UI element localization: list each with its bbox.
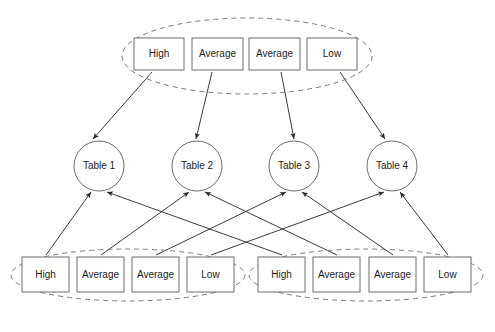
cropped-caption	[105, 312, 365, 322]
table-label-table-1: Table 1	[83, 160, 116, 171]
node-label-br-4: Low	[438, 269, 457, 280]
node-label-top-1: High	[149, 48, 170, 59]
node-label-bl-1: High	[35, 269, 56, 280]
node-label-bl-3: Average	[137, 269, 175, 280]
edge-br-1-to-table-1	[107, 192, 282, 255]
node-label-br-2: Average	[318, 269, 356, 280]
node-label-top-4: Low	[323, 48, 342, 59]
edge-top-2-to-table-2	[196, 72, 212, 139]
edge-top-4-to-table-4	[340, 72, 385, 139]
edge-top-1-to-table-1	[93, 72, 152, 139]
node-label-br-3: Average	[374, 269, 412, 280]
table-label-table-3: Table 3	[278, 160, 311, 171]
node-label-bl-4: Low	[201, 269, 220, 280]
edge-bl-1-to-table-1	[46, 192, 91, 255]
node-label-top-2: Average	[199, 48, 237, 59]
node-label-bl-2: Average	[82, 269, 120, 280]
node-label-top-3: Average	[256, 48, 294, 59]
table-label-table-4: Table 4	[376, 160, 409, 171]
edge-top-3-to-table-3	[281, 72, 294, 139]
edge-br-2-to-table-2	[205, 192, 337, 255]
table-label-table-2: Table 2	[181, 160, 214, 171]
tables-layer: Table 1Table 2Table 3Table 4	[74, 141, 417, 191]
diagram-svg: HighAverageAverageLowHighAverageAverageL…	[0, 0, 495, 332]
edge-bl-4-to-table-4	[211, 192, 384, 255]
node-label-br-1: High	[271, 269, 292, 280]
edge-br-3-to-table-3	[302, 192, 393, 255]
diagram-canvas: HighAverageAverageLowHighAverageAverageL…	[0, 0, 495, 332]
edge-br-4-to-table-4	[400, 192, 448, 255]
